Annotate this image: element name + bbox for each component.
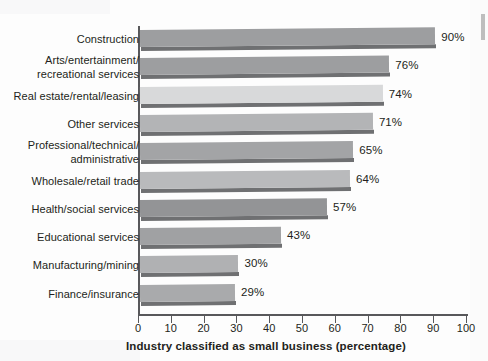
bar — [140, 84, 383, 103]
x-tick-label: 30 — [222, 322, 250, 334]
category-label: Real estate/rental/leasing — [14, 90, 139, 104]
bar — [140, 113, 373, 132]
bar-value-label: 65% — [359, 144, 382, 156]
bar-row: 29% — [140, 285, 295, 307]
bar-row: 43% — [140, 228, 341, 250]
x-tick-label: 60 — [321, 322, 349, 334]
category-label: Finance/insurance — [48, 288, 139, 302]
x-tick-label: 90 — [419, 322, 447, 334]
bar-value-label: 74% — [389, 88, 412, 100]
category-label: Manufacturing/mining — [33, 259, 139, 273]
bar-value-label: 29% — [241, 286, 264, 298]
category-label: Wholesale/retail trade — [32, 175, 140, 189]
x-tick-label: 50 — [288, 322, 316, 334]
bar-value-label: 90% — [441, 31, 464, 43]
x-tick-label: 10 — [157, 322, 185, 334]
bar-value-label: 76% — [395, 59, 418, 71]
bar — [140, 141, 353, 160]
bar-row: 71% — [140, 115, 433, 137]
x-axis-title: Industry classified as small business (p… — [0, 340, 488, 352]
bar-value-label: 57% — [333, 201, 356, 213]
bar-value-label: 30% — [244, 257, 267, 269]
bar-row: 90% — [140, 30, 488, 52]
bar-value-label: 43% — [287, 229, 310, 241]
category-label: Arts/entertainment/ recreational service… — [37, 54, 139, 81]
bar-row: 57% — [140, 200, 387, 222]
bar — [140, 227, 281, 245]
x-tick-label: 80 — [386, 322, 414, 334]
x-tick-label: 20 — [190, 322, 218, 334]
category-label: Other services — [67, 118, 139, 132]
category-label: Construction — [77, 33, 139, 47]
category-label: Educational services — [37, 231, 139, 245]
bar-row: 64% — [140, 172, 410, 194]
bar-row: 74% — [140, 87, 443, 109]
bar-value-label: 71% — [379, 116, 402, 128]
category-label: Health/social services — [32, 203, 139, 217]
x-axis-line — [138, 314, 468, 316]
x-tick-label: 70 — [354, 322, 382, 334]
bar-value-label: 64% — [356, 173, 379, 185]
bar-row: 30% — [140, 256, 298, 278]
category-label: Professional/technical/ administrative — [28, 139, 139, 166]
bar-row: 76% — [140, 58, 449, 80]
bar — [140, 27, 435, 47]
bar — [140, 169, 350, 188]
bar-row: 65% — [140, 143, 413, 165]
bar-chart-figure: 0102030405060708090100 90%76%74%71%65%64… — [0, 0, 488, 361]
x-tick-label: 100 — [452, 322, 480, 334]
bar — [140, 284, 235, 302]
x-tick-label: 0 — [124, 322, 152, 334]
bar — [140, 56, 389, 75]
x-tick-label: 40 — [255, 322, 283, 334]
bar — [140, 255, 239, 273]
bar — [140, 198, 327, 217]
plot-area: 0102030405060708090100 90%76%74%71%65%64… — [0, 0, 488, 361]
bar-shadow — [141, 272, 239, 277]
